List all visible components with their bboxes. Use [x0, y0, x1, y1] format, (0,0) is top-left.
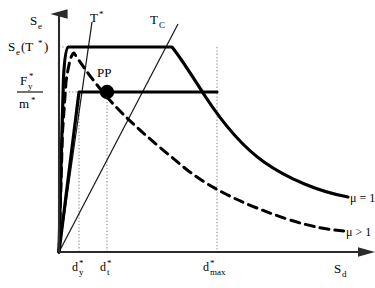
m-denominator-sup: * — [31, 95, 36, 105]
y-axis-title-base: S — [30, 13, 37, 28]
se-t-star-base: S — [8, 39, 15, 54]
se-t-star-sub: e — [16, 47, 20, 57]
m-denominator-base: m — [19, 96, 29, 111]
x-axis-title: S d — [334, 261, 347, 279]
t-star-base: T — [90, 10, 98, 25]
fy-numerator-sub: y — [28, 81, 33, 91]
d-yield-sup: * — [79, 258, 84, 268]
x-tick-label-d-yield: d y * — [72, 258, 84, 277]
performance-point-label: PP — [97, 65, 111, 80]
series-label-mu-equals-1: μ = 1 — [350, 191, 375, 205]
performance-point-group: PP — [97, 65, 114, 99]
performance-point-dot — [100, 85, 114, 99]
tc-sub: C — [159, 20, 165, 30]
y-tick-label-fy-over-m: F y * m * — [17, 71, 43, 111]
x-tick-label-d-target: d t * — [100, 258, 112, 277]
radial-label-t-star: T * — [90, 9, 104, 25]
curve-capacity-diagram — [59, 92, 217, 252]
curve-inelastic-demand-spectrum — [59, 53, 344, 252]
radial-label-tc: T C — [150, 12, 165, 30]
d-yield-sub: y — [79, 267, 84, 277]
d-max-base: d — [203, 260, 209, 274]
d-target-sub: t — [107, 267, 110, 277]
d-max-sup: * — [210, 258, 215, 268]
d-yield-base: d — [72, 260, 78, 274]
radial-period-lines — [59, 22, 178, 252]
axes — [59, 14, 358, 252]
capacity-spectrum-figure: PP S e S d S e (T * ) F y * m * — [0, 0, 375, 288]
y-tick-label-se-t-star: S e (T * ) — [8, 38, 48, 57]
d-max-sub: max — [210, 267, 226, 277]
d-target-sup: * — [107, 258, 112, 268]
fy-numerator-sup: * — [29, 71, 34, 81]
x-axis-title-sub: d — [342, 269, 347, 279]
capacity-spectrum-plot: PP S e S d S e (T * ) F y * m * — [0, 0, 375, 288]
x-axis-title-base: S — [334, 261, 341, 276]
y-axis-title: S e — [30, 13, 42, 31]
x-tick-label-d-max: d max * — [203, 258, 226, 277]
series-label-mu-greater-1: μ > 1 — [346, 225, 371, 239]
se-t-star-paren-open: (T — [21, 39, 33, 54]
se-t-star-paren-close: ) — [44, 39, 48, 54]
radial-line-tc — [59, 24, 178, 252]
tc-base: T — [150, 12, 158, 27]
y-axis-title-sub: e — [38, 21, 42, 31]
se-t-star-sup: * — [38, 38, 43, 48]
fy-numerator-base: F — [20, 73, 27, 88]
d-target-base: d — [100, 260, 106, 274]
t-star-sup: * — [99, 9, 104, 19]
